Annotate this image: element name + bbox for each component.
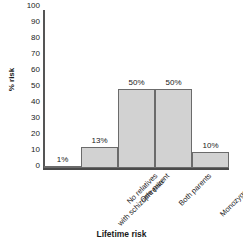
x-axis-title: Lifetime risk [0,229,243,239]
y-axis-title: % risk [7,55,16,105]
y-tick-40: 40 [31,98,40,106]
y-tick-60: 60 [31,66,40,74]
y-tick-70: 70 [31,50,40,58]
y-axis-tick-labels: 100 90 80 70 60 50 40 30 20 10 0 [22,6,40,170]
lifetime-risk-bar-chart: % risk 100 90 80 70 60 50 40 30 20 10 0 … [0,0,243,245]
bar-monozygotic-twin[interactable] [155,89,192,168]
bar-cell-siblings-dizygotic: 10% [192,10,229,168]
x-axis-line [43,168,229,170]
bar-value-label-one-parent: 13% [81,136,118,145]
bar-cell-no-relatives: 1% [44,10,81,168]
bar-value-label-siblings-dizygotic-twins: 10% [192,141,229,150]
bar-cell-both-parents: 50% [118,10,155,168]
bar-cell-monozygotic-twin: 50% [155,10,192,168]
x-label-monozygotic-twin-line1: Monozygotic twin [218,171,243,218]
bar-one-parent[interactable] [81,147,118,168]
bar-value-label-monozygotic-twin: 50% [155,78,192,87]
x-label-both-parents-line1: Both parents [177,171,213,207]
y-tick-50: 50 [31,82,40,90]
y-tick-80: 80 [31,34,40,42]
bar-cell-one-parent: 13% [81,10,118,168]
bar-siblings-dizygotic-twins[interactable] [192,152,229,168]
bar-both-parents[interactable] [118,89,155,168]
y-tick-10: 10 [31,146,40,154]
bar-series: 1% 13% 50% 50% 10% [44,10,229,168]
y-tick-100: 100 [27,2,40,10]
x-axis-category-labels: No relatives with schizophrenia One pare… [44,172,229,224]
y-tick-0: 0 [36,162,40,170]
plot-area: 1% 13% 50% 50% 10% [43,10,229,170]
bar-value-label-both-parents: 50% [118,78,155,87]
x-label-monozygotic-twin: Monozygotic twin [219,172,243,219]
x-label-both-parents: Both parents [177,172,213,208]
bar-no-relatives[interactable] [44,166,81,168]
y-tick-90: 90 [31,18,40,26]
y-tick-30: 30 [31,114,40,122]
bar-value-label-no-relatives: 1% [44,155,81,164]
y-tick-20: 20 [31,130,40,138]
